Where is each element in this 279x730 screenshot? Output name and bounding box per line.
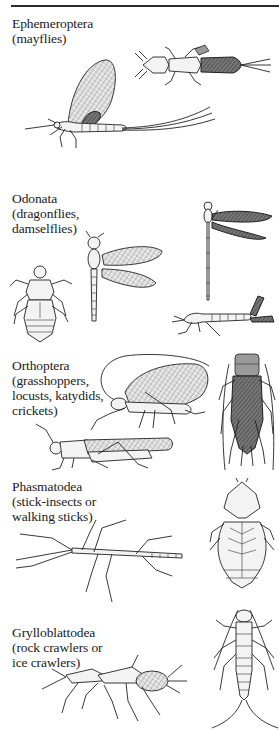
common-name: (rock crawlers or: [12, 640, 103, 655]
section-label-odonata: Odonata (dragonflies, damselflies): [12, 191, 79, 236]
damselfly-nymph-illustration: [172, 292, 277, 337]
damselfly-adult-illustration: [198, 198, 278, 303]
cricket-illustration: [217, 350, 279, 470]
dragonfly-adult-illustration: [80, 225, 170, 325]
order-name: Phasmatodea: [12, 479, 96, 494]
grasshopper-illustration: [28, 424, 178, 474]
leaf-insect-illustration: [208, 478, 276, 593]
order-name: Odonata: [12, 191, 79, 206]
stick-insect-illustration: [12, 520, 187, 605]
common-name: (dragonflies,: [12, 206, 79, 221]
section-label-phasmatodea: Phasmatodea (stick-insects or walking st…: [12, 479, 96, 524]
common-name: (stick-insects or: [12, 494, 96, 509]
katydid-illustration: [85, 352, 215, 432]
common-name: damselflies): [12, 221, 79, 236]
order-name: Ephemeroptera: [12, 16, 93, 31]
top-rule: [11, 5, 279, 7]
rock-crawler-dorsal-illustration: [208, 600, 279, 730]
mayfly-nymph-illustration: [135, 45, 275, 90]
order-name: Grylloblattodea: [12, 625, 103, 640]
dragonfly-nymph-illustration: [10, 262, 75, 347]
common-name: (mayflies): [12, 31, 93, 46]
rock-crawler-pair-illustration: [42, 655, 187, 730]
section-label-ephemeroptera: Ephemeroptera (mayflies): [12, 16, 93, 46]
